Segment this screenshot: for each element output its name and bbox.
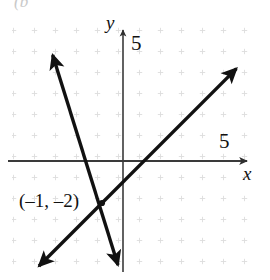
intersection-point — [99, 200, 105, 206]
y-axis-tick-label-5: 5 — [131, 33, 142, 54]
figure-canvas: (b y x 5 5 (–1, –2) — [0, 0, 270, 280]
y-axis-label: y — [106, 13, 114, 32]
intersection-point-label: (–1, –2) — [19, 191, 79, 210]
x-axis-label: x — [243, 164, 251, 183]
x-axis-tick-label-5: 5 — [219, 131, 230, 152]
clipped-corner-fragment: (b — [14, 0, 28, 10]
